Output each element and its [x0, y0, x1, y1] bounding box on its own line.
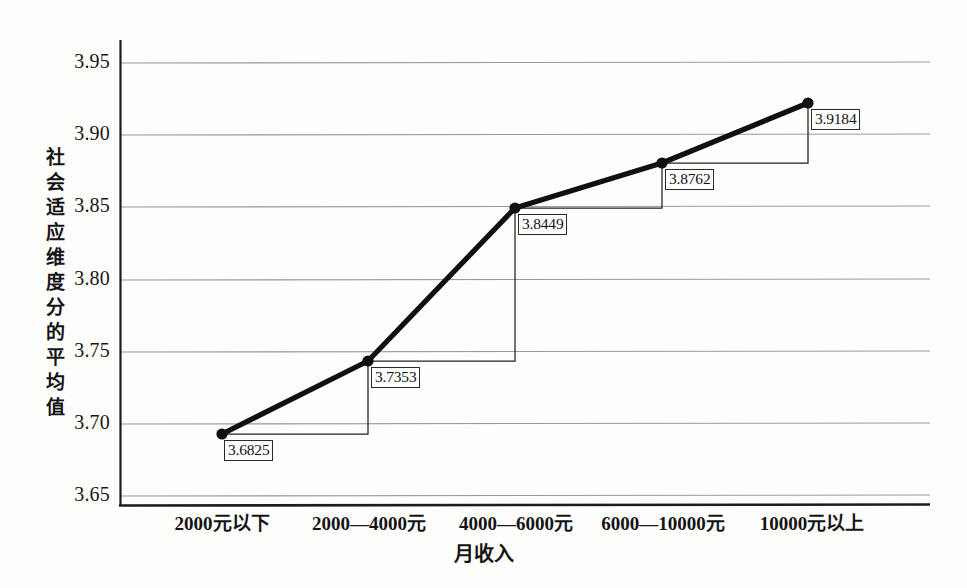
xtick-label-5: 10000元以上	[737, 508, 887, 535]
data-label-3: 3.8449	[518, 214, 567, 235]
ytick-label-3.95: 3.95	[36, 50, 110, 73]
ytick-label-3.65: 3.65	[36, 483, 110, 506]
y-axis-title-char: 的	[41, 320, 69, 345]
gridline-3.75	[120, 351, 930, 352]
y-axis-title-char: 适	[41, 195, 69, 220]
data-label-5: 3.9184	[811, 109, 860, 130]
y-axis-title-char: 均	[41, 370, 69, 395]
xtick-label-2: 2000—4000元	[294, 508, 444, 535]
line-chart: 3.95 3.90 3.85 3.80 3.75 3.70 3.65 社 会 适…	[0, 0, 967, 588]
plot-canvas	[0, 0, 967, 588]
y-axis-title-char: 度	[41, 270, 69, 295]
y-axis-title-char: 平	[41, 345, 69, 370]
data-point-3	[509, 202, 520, 213]
data-point-1	[216, 428, 227, 439]
y-axis-title-char: 会	[41, 170, 69, 195]
data-label-2: 3.7353	[371, 367, 420, 388]
gridline-3.65	[120, 495, 930, 496]
x-axis-title: 月收入	[0, 538, 967, 567]
x-axis-line	[119, 505, 930, 506]
xtick-label-4: 6000—10000元	[583, 508, 743, 535]
y-axis-title-char: 维	[41, 245, 69, 270]
y-axis-title: 社 会 适 应 维 度 分 的 平 均 值	[41, 145, 69, 420]
gridline-3.80	[120, 279, 930, 280]
data-label-4: 3.8762	[665, 169, 714, 190]
data-point-2	[362, 355, 373, 366]
ytick-label-3.90: 3.90	[36, 122, 110, 145]
data-label-1: 3.6825	[224, 440, 273, 461]
data-point-4	[656, 157, 667, 168]
y-axis-title-char: 应	[41, 220, 69, 245]
xtick-label-3: 4000—6000元	[441, 508, 591, 535]
data-point-5	[802, 97, 813, 108]
xtick-label-1: 2000元以下	[152, 508, 292, 535]
gridline-3.95	[120, 62, 930, 63]
y-axis-title-char: 值	[41, 395, 69, 420]
label-leader-lines	[222, 103, 808, 434]
y-axis-title-char: 分	[41, 295, 69, 320]
y-axis-title-char: 社	[41, 145, 69, 170]
